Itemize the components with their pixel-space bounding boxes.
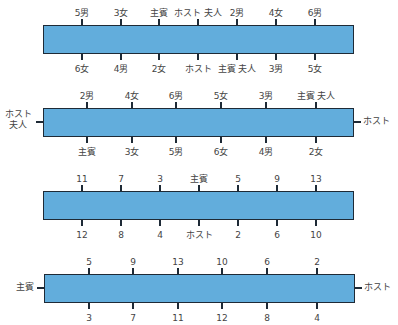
seat-tick bbox=[220, 137, 222, 143]
seat-label: 12 bbox=[216, 313, 227, 323]
seat-label: 5女 bbox=[308, 64, 323, 74]
seat-tick bbox=[81, 220, 83, 226]
seat-tick bbox=[175, 102, 177, 108]
table-1: 5男 3女 主賓 ホスト 夫人 2男 4女 6男 6女 4男 2女 ホスト bbox=[0, 0, 398, 82]
seat-tick bbox=[237, 220, 239, 226]
seat-label: 4 bbox=[157, 230, 163, 240]
table-4-bar bbox=[44, 274, 355, 303]
table-1-bar bbox=[43, 25, 354, 54]
seat-tick bbox=[158, 54, 160, 60]
table-4: 主賓 ホスト 5 9 13 10 6 2 3 7 11 12 bbox=[0, 249, 398, 325]
seat-tick bbox=[275, 19, 277, 25]
right-end-tick bbox=[355, 287, 362, 289]
left-end-tick bbox=[36, 121, 43, 123]
table-3-bar bbox=[43, 191, 354, 220]
seat-tick bbox=[315, 185, 317, 191]
seat-label: 11 bbox=[76, 174, 87, 184]
seat-tick bbox=[276, 185, 278, 191]
seat-tick bbox=[265, 137, 267, 143]
seat-tick bbox=[198, 185, 200, 191]
seat-label: 8 bbox=[118, 230, 124, 240]
seat-label: ホスト bbox=[185, 64, 212, 74]
table-2-bar bbox=[43, 108, 354, 137]
seat-label: 6 bbox=[264, 257, 270, 267]
table-2: ホスト 夫人 ホスト 2男 4女 6男 5女 3男 主賓 夫人 主賓 3女 5男 bbox=[0, 83, 398, 165]
seat-label: 4 bbox=[314, 313, 320, 323]
seat-label: 2 bbox=[314, 257, 320, 267]
seat-label: 2女 bbox=[309, 147, 324, 157]
seat-tick bbox=[221, 303, 223, 309]
seat-tick bbox=[237, 185, 239, 191]
seat-tick bbox=[86, 102, 88, 108]
seat-tick bbox=[316, 303, 318, 309]
seat-label: 4女 bbox=[125, 91, 140, 101]
seat-label: 3女 bbox=[114, 8, 129, 18]
seat-label: 4女 bbox=[269, 8, 284, 18]
seat-label: 8 bbox=[264, 313, 270, 323]
seat-tick bbox=[266, 268, 268, 274]
seat-label: 11 bbox=[172, 313, 183, 323]
seat-label: 2 bbox=[235, 230, 241, 240]
seat-label: 5女 bbox=[214, 91, 229, 101]
seat-tick bbox=[86, 137, 88, 143]
seat-label: 主賓 bbox=[150, 8, 168, 18]
seat-tick bbox=[197, 19, 199, 25]
seat-label: 主賓 bbox=[78, 147, 96, 157]
seat-tick bbox=[177, 303, 179, 309]
seat-tick bbox=[88, 303, 90, 309]
seat-label: 6女 bbox=[75, 64, 90, 74]
seat-label: 3 bbox=[157, 174, 163, 184]
seat-label: 4男 bbox=[259, 147, 274, 157]
seat-tick bbox=[81, 19, 83, 25]
seat-label: 10 bbox=[310, 230, 321, 240]
seat-label: 5男 bbox=[75, 8, 90, 18]
seat-tick bbox=[316, 268, 318, 274]
left-end-tick bbox=[37, 287, 44, 289]
seat-tick bbox=[177, 268, 179, 274]
seat-tick bbox=[175, 137, 177, 143]
seat-label: 3 bbox=[86, 313, 92, 323]
seat-label: 主賓 夫人 bbox=[218, 64, 257, 74]
left-end-seat-label: ホスト 夫人 bbox=[2, 109, 34, 131]
seat-label: 4男 bbox=[114, 64, 129, 74]
seat-tick bbox=[120, 19, 122, 25]
seat-tick bbox=[275, 54, 277, 60]
left-end-seat-label: 主賓 bbox=[16, 282, 34, 293]
seat-tick bbox=[266, 303, 268, 309]
seat-label: 5 bbox=[86, 257, 92, 267]
seat-tick bbox=[158, 19, 160, 25]
seat-label: 主賓 bbox=[190, 174, 208, 184]
seat-tick bbox=[120, 220, 122, 226]
right-end-seat-label: ホスト bbox=[364, 282, 391, 293]
seat-label: 7 bbox=[130, 313, 136, 323]
seat-label: 6女 bbox=[214, 147, 229, 157]
seat-tick bbox=[159, 185, 161, 191]
seat-tick bbox=[315, 220, 317, 226]
seat-tick bbox=[132, 303, 134, 309]
seat-label: 5男 bbox=[169, 147, 184, 157]
seat-tick bbox=[315, 137, 317, 143]
seat-label: 13 bbox=[310, 174, 321, 184]
seat-label: ホスト bbox=[186, 230, 213, 240]
seat-label: 2男 bbox=[80, 91, 95, 101]
seat-label: 13 bbox=[172, 257, 183, 267]
seat-tick bbox=[81, 54, 83, 60]
seat-tick bbox=[236, 19, 238, 25]
seat-label: 2男 bbox=[230, 8, 245, 18]
seat-tick bbox=[88, 268, 90, 274]
seat-tick bbox=[314, 19, 316, 25]
seat-tick bbox=[198, 220, 200, 226]
seat-label: 主賓 夫人 bbox=[297, 91, 336, 101]
seat-tick bbox=[236, 54, 238, 60]
seat-tick bbox=[315, 102, 317, 108]
seat-label: 12 bbox=[76, 230, 87, 240]
seat-label: 3男 bbox=[259, 91, 274, 101]
seat-tick bbox=[314, 54, 316, 60]
seat-label: 3男 bbox=[269, 64, 284, 74]
seat-label: 7 bbox=[118, 174, 124, 184]
seat-tick bbox=[120, 54, 122, 60]
seat-label: 6 bbox=[274, 230, 280, 240]
seat-tick bbox=[132, 268, 134, 274]
seat-label: ホスト 夫人 bbox=[174, 8, 222, 18]
seat-tick bbox=[197, 54, 199, 60]
